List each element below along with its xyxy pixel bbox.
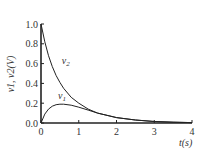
- y-tick-label: 0.6: [26, 58, 39, 69]
- x-tick-label: 2: [114, 126, 119, 137]
- y-axis-label: v1, v2(V): [5, 55, 17, 92]
- x-tick-label: 4: [190, 126, 195, 137]
- curves: [41, 24, 192, 123]
- y-tick-label: 0.8: [26, 38, 39, 49]
- annotation-v2: v2: [62, 55, 70, 68]
- chart: 012340.00.20.40.60.81.0 v2v1t(s)v1, v2(V…: [0, 0, 206, 155]
- annotation-v1: v1: [58, 90, 66, 103]
- x-tick-label: 1: [76, 126, 81, 137]
- y-tick-label: 0.4: [26, 78, 39, 89]
- x-tick-label: 0: [39, 126, 44, 137]
- axes: 012340.00.20.40.60.81.0: [26, 19, 195, 138]
- x-tick-label: 3: [152, 126, 157, 137]
- y-tick-label: 0.0: [26, 118, 39, 129]
- y-tick-label: 1.0: [26, 19, 39, 30]
- series-v2-line: [41, 24, 192, 123]
- y-tick-label: 0.2: [26, 98, 39, 109]
- x-axis-label: t(s): [179, 137, 193, 149]
